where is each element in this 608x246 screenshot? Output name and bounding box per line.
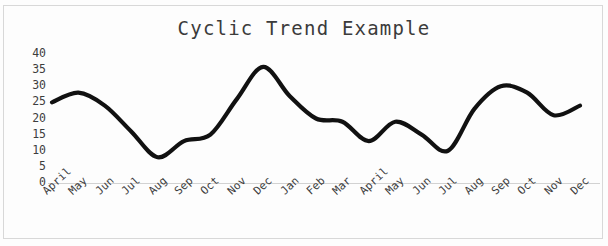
x-tick-label: April xyxy=(40,165,74,198)
x-tick-label: Nov xyxy=(542,174,566,197)
x-tick-label: Sep xyxy=(489,174,513,197)
plot-area: 4035302520151050 AprilMayJunJulAugSepOct… xyxy=(0,0,608,246)
x-tick-label: Sep xyxy=(172,174,196,197)
x-tick-label: Oct xyxy=(515,174,539,197)
x-tick-label: Feb xyxy=(304,174,328,197)
x-tick-label: Mar xyxy=(330,174,354,197)
x-tick-label: Jan xyxy=(278,174,302,197)
x-axis: AprilMayJunJulAugSepOctNovDecJanFebMarAp… xyxy=(0,0,608,246)
x-tick-label: Jun xyxy=(93,174,117,197)
x-tick-label: Dec xyxy=(251,174,275,197)
x-tick-label: April xyxy=(357,165,391,198)
x-tick-label: Jul xyxy=(119,174,143,197)
x-tick-label: Nov xyxy=(225,174,249,197)
x-tick-label: Oct xyxy=(198,174,222,197)
chart-figure: Cyclic Trend Example 4035302520151050 Ap… xyxy=(0,0,608,246)
x-tick-label: Jun xyxy=(410,174,434,197)
x-tick-label: Aug xyxy=(462,174,486,197)
x-tick-label: Jul xyxy=(436,174,460,197)
x-tick-label: Dec xyxy=(568,174,592,197)
x-tick-label: Aug xyxy=(146,174,170,197)
